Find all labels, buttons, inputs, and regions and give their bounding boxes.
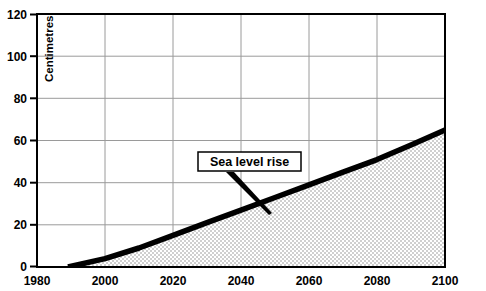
x-tick-label-2100: 2100: [432, 274, 459, 288]
y-tick-label-60: 60: [14, 134, 28, 148]
x-tick-label-2000: 2000: [92, 274, 119, 288]
x-tick-label-1980: 1980: [24, 274, 51, 288]
x-tick-label-2080: 2080: [364, 274, 391, 288]
y-tick-label-40: 40: [14, 176, 28, 190]
y-tick-label-100: 100: [7, 50, 27, 64]
sea-level-rise-chart: 120 100 80 60 40 20 0 1980 2000 2020 204…: [0, 0, 486, 291]
y-axis-title: Centimetres: [43, 16, 55, 82]
y-tick-label-120: 120: [7, 8, 27, 22]
y-tick-label-20: 20: [14, 218, 28, 232]
annotation-label: Sea level rise: [210, 155, 289, 169]
y-tick-label-80: 80: [14, 92, 28, 106]
chart-canvas: 120 100 80 60 40 20 0 1980 2000 2020 204…: [0, 0, 486, 291]
x-tick-label-2060: 2060: [296, 274, 323, 288]
x-tick-label-2040: 2040: [228, 274, 255, 288]
x-tick-label-2020: 2020: [160, 274, 187, 288]
y-tick-label-0: 0: [20, 260, 27, 274]
